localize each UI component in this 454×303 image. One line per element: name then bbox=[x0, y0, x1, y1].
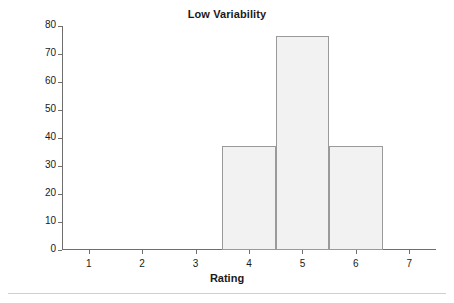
y-axis-tick-label: 70 bbox=[45, 47, 56, 58]
histogram-bar bbox=[222, 146, 275, 250]
x-axis-tick-label: 7 bbox=[389, 258, 429, 269]
chart-title: Low Variability bbox=[0, 8, 454, 20]
x-axis-tick bbox=[409, 250, 410, 254]
x-axis-tick bbox=[302, 250, 303, 254]
histogram-bar bbox=[329, 146, 382, 250]
x-axis-tick bbox=[356, 250, 357, 254]
x-axis-tick-label: 2 bbox=[122, 258, 162, 269]
x-axis-tick-label: 4 bbox=[229, 258, 269, 269]
y-axis-tick bbox=[58, 26, 62, 27]
y-axis-tick-label: 0 bbox=[50, 243, 56, 254]
y-axis-tick bbox=[58, 166, 62, 167]
y-axis-tick bbox=[58, 194, 62, 195]
y-axis-tick bbox=[58, 250, 62, 251]
x-axis-tick-label: 1 bbox=[69, 258, 109, 269]
x-axis-tick bbox=[196, 250, 197, 254]
histogram-bar bbox=[276, 36, 329, 250]
chart-figure: Low Variability Frequency 01020304050607… bbox=[0, 0, 454, 303]
y-axis-tick-label: 20 bbox=[45, 187, 56, 198]
plot-area: 01020304050607080 1234567 bbox=[62, 26, 436, 250]
y-axis-tick bbox=[58, 138, 62, 139]
y-axis-tick-label: 60 bbox=[45, 75, 56, 86]
x-axis-tick-label: 5 bbox=[282, 258, 322, 269]
x-axis-title: Rating bbox=[0, 272, 454, 284]
footer-divider bbox=[8, 293, 446, 294]
y-axis-line bbox=[62, 26, 63, 250]
y-axis-tick bbox=[58, 110, 62, 111]
y-axis-title-text: Frequency bbox=[8, 0, 26, 44]
y-axis-tick-label: 80 bbox=[45, 19, 56, 30]
y-axis-tick bbox=[58, 54, 62, 55]
y-axis-tick-label: 40 bbox=[45, 131, 56, 142]
y-axis-tick bbox=[58, 222, 62, 223]
y-axis-title: Frequency bbox=[6, 26, 24, 250]
y-axis-tick-label: 10 bbox=[45, 215, 56, 226]
x-axis-tick bbox=[89, 250, 90, 254]
x-axis-tick-label: 6 bbox=[336, 258, 376, 269]
y-axis-tick-label: 50 bbox=[45, 103, 56, 114]
x-axis-tick bbox=[249, 250, 250, 254]
x-axis-tick-label: 3 bbox=[176, 258, 216, 269]
y-axis-tick-label: 30 bbox=[45, 159, 56, 170]
x-axis-tick bbox=[142, 250, 143, 254]
y-axis-tick bbox=[58, 82, 62, 83]
